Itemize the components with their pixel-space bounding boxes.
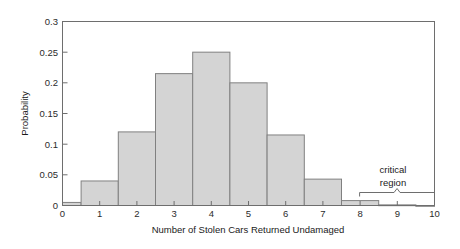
histogram-chart: 0 0.05 0.1 0.15 0.2 0.25 0.3 Probability… xyxy=(0,0,460,249)
critical-region-label-line2: region xyxy=(380,177,406,188)
x-tick-label: 2 xyxy=(134,208,139,219)
histogram-bar xyxy=(193,52,230,205)
x-tick-label: 3 xyxy=(171,208,176,219)
x-tick-label: 10 xyxy=(429,208,440,219)
x-tick-label: 5 xyxy=(246,208,251,219)
histogram-bar xyxy=(267,135,304,206)
x-tick-label: 1 xyxy=(97,208,102,219)
y-tick-label: 0.05 xyxy=(40,169,59,180)
x-tick-label: 7 xyxy=(320,208,325,219)
histogram-bar xyxy=(118,132,155,206)
x-axis-title: Number of Stolen Cars Returned Undamaged xyxy=(152,224,345,235)
critical-region-annotation: critical region xyxy=(360,164,435,197)
bars-group xyxy=(63,52,435,206)
histogram-bar xyxy=(230,83,267,206)
critical-region-brace xyxy=(360,189,435,197)
y-tick-label: 0.2 xyxy=(45,77,58,88)
x-tick-label: 8 xyxy=(357,208,362,219)
y-axis-tick-labels: 0 0.05 0.1 0.15 0.2 0.25 0.3 xyxy=(40,16,59,211)
x-tick-label: 4 xyxy=(209,208,214,219)
x-tick-label: 6 xyxy=(283,208,288,219)
y-tick-label: 0.15 xyxy=(40,108,59,119)
y-tick-label: 0.1 xyxy=(45,139,58,150)
x-axis-tick-labels: 012345678910 xyxy=(60,208,440,219)
histogram-bar xyxy=(156,74,193,206)
y-tick-label: 0.3 xyxy=(45,16,58,27)
y-axis-ticks xyxy=(63,22,68,206)
y-axis-title: Probability xyxy=(19,91,30,136)
x-tick-label: 9 xyxy=(395,208,400,219)
y-tick-label: 0.25 xyxy=(40,47,59,58)
x-tick-label: 0 xyxy=(60,208,65,219)
critical-region-label-line1: critical xyxy=(380,164,407,175)
y-tick-label: 0 xyxy=(53,200,58,211)
figure-container: 0 0.05 0.1 0.15 0.2 0.25 0.3 Probability… xyxy=(0,0,460,249)
